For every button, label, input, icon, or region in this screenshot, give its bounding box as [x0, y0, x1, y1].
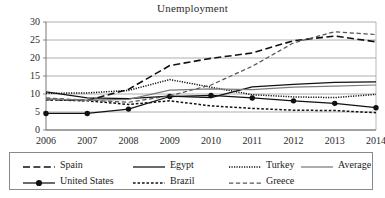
legend-entry-united-states[interactable]: United States — [22, 173, 114, 188]
data-series — [43, 32, 378, 116]
chart-legend: SpainEgyptTurkeyAverageUnited StatesBraz… — [9, 152, 373, 190]
legend-swatch-united-states-icon — [22, 175, 56, 187]
x-tick-label: 2007 — [77, 135, 97, 146]
y-tick-label: 30 — [30, 16, 40, 27]
legend-entry-average[interactable]: Average — [300, 157, 371, 172]
series-marker-united-states — [126, 106, 131, 111]
legend-label-united-states: United States — [60, 175, 114, 186]
legend-label-greece: Greece — [266, 175, 294, 186]
y-tick-label: 5 — [35, 106, 40, 117]
x-tick-label: 2011 — [242, 135, 262, 146]
legend-label-spain: Spain — [60, 159, 83, 170]
legend-swatch-average-icon — [300, 159, 334, 171]
legend-label-turkey: Turkey — [266, 159, 295, 170]
legend-entry-turkey[interactable]: Turkey — [228, 157, 295, 172]
series-marker-united-states — [373, 105, 378, 110]
y-tick-label: 10 — [30, 88, 40, 99]
legend-entry-brazil[interactable]: Brazil — [132, 173, 194, 188]
x-tick-label: 2009 — [160, 135, 180, 146]
x-axis-ticks: 200620072008200920102011201220132014 — [36, 135, 385, 146]
x-tick-label: 2012 — [284, 135, 304, 146]
y-tick-label: 20 — [30, 52, 40, 63]
gridlines — [46, 22, 376, 130]
legend-swatch-egypt-icon — [132, 159, 166, 171]
x-tick-label: 2010 — [201, 135, 221, 146]
x-tick-label: 2013 — [325, 135, 345, 146]
legend-entry-spain[interactable]: Spain — [22, 157, 83, 172]
legend-swatch-spain-icon — [22, 159, 56, 171]
series-marker-united-states — [43, 111, 48, 116]
legend-swatch-greece-icon — [228, 175, 262, 187]
x-tick-label: 2006 — [36, 135, 56, 146]
x-tick-label: 2014 — [366, 135, 385, 146]
series-marker-united-states — [85, 111, 90, 116]
y-axis-ticks: 051015202530 — [30, 16, 46, 135]
y-tick-label: 25 — [30, 34, 40, 45]
series-marker-united-states — [250, 95, 255, 100]
x-tick-label: 2008 — [119, 135, 139, 146]
series-line-brazil — [46, 100, 376, 113]
legend-entry-egypt[interactable]: Egypt — [132, 157, 194, 172]
legend-entry-greece[interactable]: Greece — [228, 173, 294, 188]
series-line-greece — [46, 32, 376, 103]
series-line-spain — [46, 36, 376, 100]
y-tick-label: 0 — [35, 124, 40, 135]
legend-swatch-brazil-icon — [132, 175, 166, 187]
series-marker-united-states — [291, 98, 296, 103]
legend-label-egypt: Egypt — [170, 159, 194, 170]
legend-label-brazil: Brazil — [170, 175, 194, 186]
unemployment-chart: Unemployment 051015202530 20062007200820… — [0, 0, 385, 198]
series-marker-united-states — [332, 101, 337, 106]
y-tick-label: 15 — [30, 70, 40, 81]
legend-label-average: Average — [338, 159, 371, 170]
legend-swatch-turkey-icon — [228, 159, 262, 171]
